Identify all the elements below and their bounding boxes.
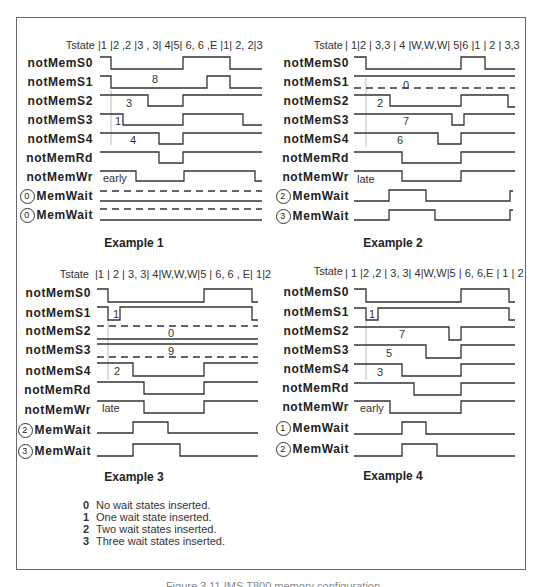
example-3-panel: Tstate |1 | 2 | 3, 3| 4|W,W,W|5 | 6, 6 ,… — [0, 260, 273, 490]
note-s4: 6 — [397, 134, 403, 146]
example-title: Example 1 — [44, 236, 224, 250]
legend-item: 1One wait state inserted. — [83, 511, 225, 523]
legend-item: 0No wait states inserted. — [83, 499, 225, 511]
wait-state-legend: 0No wait states inserted. 1One wait stat… — [83, 499, 225, 547]
note-s3: 1 — [115, 115, 121, 127]
timing-waveforms — [0, 260, 273, 490]
legend-item: 3Three wait states inserted. — [83, 535, 225, 547]
note-s3: 9 — [168, 345, 174, 357]
note-s2: 2 — [377, 97, 383, 109]
figure-caption: Figure 3.11 IMS T800 memory configuratio… — [0, 580, 546, 587]
note-s2: 3 — [126, 97, 132, 109]
example-title: Example 3 — [44, 470, 224, 484]
example-title: Example 4 — [303, 469, 483, 483]
example-2-panel: Tstate | 1|2 | 3,3 | 4 |W,W,W| 5|6 |1 | … — [273, 0, 546, 260]
example-4-panel: Tstate | 1 |2 ,2 | 3, 3| 4|W,W|5 | 6, 6,… — [273, 260, 546, 490]
note-wr: early — [360, 402, 384, 414]
timing-waveforms — [0, 0, 273, 260]
note-wr: early — [103, 172, 127, 184]
note-s1: 0 — [403, 79, 409, 91]
example-1-panel: Tstate |1 |2 ,2 |3 , 3| 4|5| 6, 6 ,E |1|… — [0, 0, 273, 260]
note-wr: late — [357, 173, 375, 185]
note-s4: 2 — [114, 365, 120, 377]
note-s4: 4 — [130, 134, 136, 146]
note-s3: 7 — [403, 115, 409, 127]
note-wr: late — [102, 402, 120, 414]
example-title: Example 2 — [303, 236, 483, 250]
timing-waveforms — [273, 260, 546, 490]
note-s1: 1 — [113, 308, 119, 320]
note-s1: 8 — [152, 73, 158, 85]
note-s1: 1 — [369, 308, 375, 320]
note-s2: 7 — [399, 328, 405, 340]
note-s2: 0 — [168, 327, 174, 339]
note-s3: 5 — [386, 347, 392, 359]
timing-waveforms — [273, 0, 546, 260]
note-s4: 3 — [377, 366, 383, 378]
legend-item: 2Two wait states inserted. — [83, 523, 225, 535]
